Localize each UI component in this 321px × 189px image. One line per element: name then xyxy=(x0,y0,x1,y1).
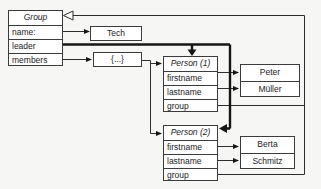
person2-field-group: group xyxy=(164,168,217,182)
members-collection-box: {...} xyxy=(93,52,142,67)
person1-title: Person (1) xyxy=(164,57,217,71)
person1-field-lastname: lastname xyxy=(164,85,217,99)
group-field-members: members xyxy=(9,53,62,67)
arrow-p2-firstname-icon xyxy=(233,144,239,149)
person1-object-box: Person (1) firstname lastname group xyxy=(163,56,218,112)
person2-values-box: Berta Schmitz xyxy=(240,136,295,169)
group-title: Group xyxy=(9,11,62,25)
person2-field-lastname: lastname xyxy=(164,154,217,168)
arrow-p2-lastname-icon xyxy=(233,158,239,163)
arrow-hollow-to-group-icon xyxy=(64,11,74,20)
person1-field-firstname: firstname xyxy=(164,71,217,85)
group-object-box: Group name: leader members xyxy=(8,10,63,66)
arrow-p1-lastname-icon xyxy=(233,86,239,91)
arrow-collection-to-person1-icon xyxy=(156,61,162,66)
person1-firstname-value: Peter xyxy=(241,65,299,81)
person2-firstname-value: Berta xyxy=(241,137,294,153)
person1-field-group: group xyxy=(164,99,217,113)
arrow-collection-to-person2-icon xyxy=(156,131,162,136)
line-collection-to-persons xyxy=(142,61,157,134)
person2-lastname-value: Schmitz xyxy=(241,153,294,169)
arrow-leader-to-person2-icon xyxy=(219,124,227,133)
person2-object-box: Person (2) firstname lastname group xyxy=(163,125,218,181)
group-field-leader: leader xyxy=(9,39,62,53)
group-field-name: name: xyxy=(9,25,62,39)
name-value-box: Tech xyxy=(90,26,142,41)
person2-field-firstname: firstname xyxy=(164,140,217,154)
arrow-p1-firstname-icon xyxy=(233,70,239,75)
arrow-members-to-collection-icon xyxy=(86,57,92,62)
object-diagram: Group name: leader members Tech {...} Pe… xyxy=(0,0,321,189)
person1-lastname-value: Müller xyxy=(241,81,299,97)
person2-title: Person (2) xyxy=(164,126,217,140)
person1-values-box: Peter Müller xyxy=(240,64,300,97)
